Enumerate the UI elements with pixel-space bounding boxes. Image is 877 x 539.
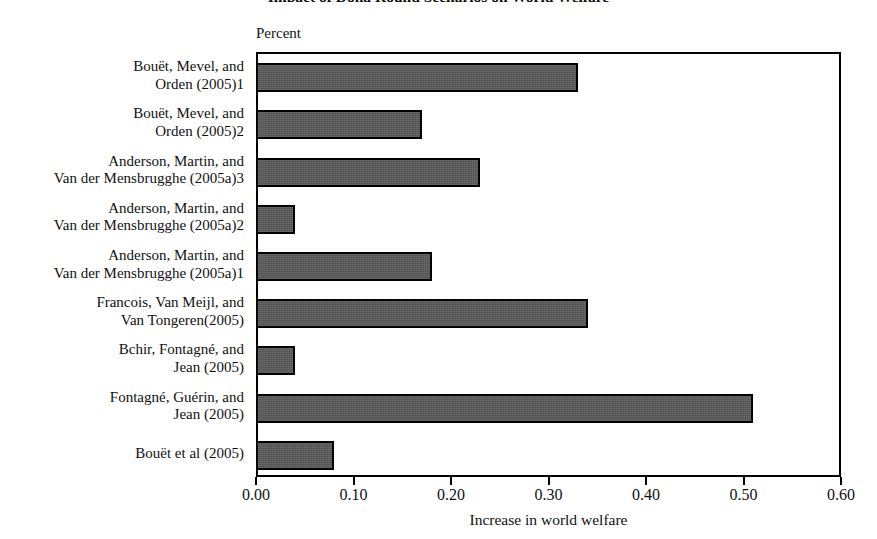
percent-unit-caption: Percent bbox=[256, 25, 301, 42]
category-label-line: Jean (2005) bbox=[0, 406, 244, 424]
category-label-line: Anderson, Martin, and bbox=[0, 247, 244, 265]
chart-figure: Impact of Doha Round Scenarios on World … bbox=[0, 0, 877, 539]
bar bbox=[256, 394, 753, 423]
category-label: Bouët, Mevel, andOrden (2005)2 bbox=[0, 105, 250, 140]
category-label-line: Fontagné, Guérin, and bbox=[0, 389, 244, 407]
category-label-line: Jean (2005) bbox=[0, 359, 244, 377]
category-label-line: Anderson, Martin, and bbox=[0, 200, 244, 218]
category-label: Bchir, Fontagné, andJean (2005) bbox=[0, 341, 250, 376]
category-label-line: Bouët et al (2005) bbox=[0, 445, 244, 463]
bar bbox=[256, 441, 334, 470]
x-axis-tick bbox=[353, 477, 355, 485]
category-label-line: Van der Mensbrugghe (2005a)1 bbox=[0, 265, 244, 283]
bar bbox=[256, 110, 422, 139]
category-label-line: Bchir, Fontagné, and bbox=[0, 341, 244, 359]
bar-row bbox=[258, 432, 839, 479]
category-label-line: Van Tongeren(2005) bbox=[0, 312, 244, 330]
bar-series bbox=[258, 54, 839, 475]
bar bbox=[256, 158, 480, 187]
x-axis-tick bbox=[840, 477, 842, 485]
bar-row bbox=[258, 54, 839, 101]
x-axis-tick bbox=[255, 477, 257, 485]
category-label: Bouët, Mevel, andOrden (2005)1 bbox=[0, 58, 250, 93]
x-axis-tick-label: 0.60 bbox=[827, 486, 855, 504]
category-label: Bouët et al (2005) bbox=[0, 445, 250, 463]
category-label-line: Bouët, Mevel, and bbox=[0, 58, 244, 76]
x-axis-tick bbox=[450, 477, 452, 485]
x-axis-tick-label: 0.30 bbox=[535, 486, 563, 504]
x-axis-tick-label: 0.40 bbox=[632, 486, 660, 504]
x-axis-tick-label: 0.50 bbox=[730, 486, 758, 504]
x-axis-tick bbox=[645, 477, 647, 485]
bar bbox=[256, 299, 588, 328]
x-axis-tick bbox=[548, 477, 550, 485]
chart-title-clipped: Impact of Doha Round Scenarios on World … bbox=[0, 0, 877, 2]
category-label-line: Van der Mensbrugghe (2005a)3 bbox=[0, 170, 244, 188]
category-label: Anderson, Martin, andVan der Mensbrugghe… bbox=[0, 247, 250, 282]
bar-row bbox=[258, 337, 839, 384]
category-label: Fontagné, Guérin, andJean (2005) bbox=[0, 389, 250, 424]
bar bbox=[256, 205, 295, 234]
x-axis-tick-label: 0.00 bbox=[242, 486, 270, 504]
category-label-line: Anderson, Martin, and bbox=[0, 153, 244, 171]
bar bbox=[256, 63, 578, 92]
bar bbox=[256, 346, 295, 375]
bar-row bbox=[258, 148, 839, 195]
category-label-line: Francois, Van Meijl, and bbox=[0, 294, 244, 312]
bar-row bbox=[258, 385, 839, 432]
bar-row bbox=[258, 196, 839, 243]
category-axis-labels: Bouët, Mevel, andOrden (2005)1Bouët, Mev… bbox=[0, 52, 250, 477]
category-label-line: Bouët, Mevel, and bbox=[0, 105, 244, 123]
bar-row bbox=[258, 101, 839, 148]
x-axis-tick bbox=[743, 477, 745, 485]
category-label-line: Van der Mensbrugghe (2005a)2 bbox=[0, 217, 244, 235]
x-axis-tick-label: 0.20 bbox=[437, 486, 465, 504]
category-label-line: Orden (2005)2 bbox=[0, 123, 244, 141]
category-label: Anderson, Martin, andVan der Mensbrugghe… bbox=[0, 153, 250, 188]
category-label: Anderson, Martin, andVan der Mensbrugghe… bbox=[0, 200, 250, 235]
bar bbox=[256, 252, 432, 281]
category-label-line: Orden (2005)1 bbox=[0, 76, 244, 94]
bar-row bbox=[258, 243, 839, 290]
x-axis-title: Increase in world welfare bbox=[256, 511, 841, 529]
x-axis-tick-label: 0.10 bbox=[340, 486, 368, 504]
plot-area bbox=[256, 52, 841, 477]
bar-row bbox=[258, 290, 839, 337]
category-label: Francois, Van Meijl, andVan Tongeren(200… bbox=[0, 294, 250, 329]
